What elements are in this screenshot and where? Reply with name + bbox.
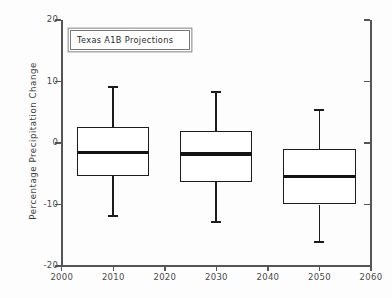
x-tick-label-2060: 2060 [351,272,391,282]
y-axis-left-line [61,20,63,266]
whisker-upper-cap [108,86,118,88]
whisker-lower-stem [112,176,114,217]
y-tick-right-20 [364,19,370,20]
whisker-lower-cap [211,221,221,223]
y-tick-label--20: -20 [28,260,58,270]
x-tick-label-2010: 2010 [93,272,133,282]
y-tick-right-0 [364,142,370,143]
whisker-lower-stem [319,205,321,244]
x-tick-label-2040: 2040 [248,272,288,282]
y-axis-right-line [370,20,372,266]
whisker-upper-stem [112,86,114,127]
median-line [180,152,252,155]
whisker-upper-stem [319,109,321,149]
whisker-upper-cap [211,91,221,93]
boxplot-chart: Percentage Precipitation Change 20100-10… [0,0,392,298]
x-tick-2040 [267,265,268,271]
y-tick-label-0: 0 [28,137,58,147]
x-tick-2050 [319,265,320,271]
median-line [77,151,149,154]
whisker-lower-stem [215,182,217,223]
whisker-lower-cap [108,215,118,217]
y-tick-label-20: 20 [28,14,58,24]
median-line [283,175,355,178]
x-tick-2060 [370,265,371,271]
x-tick-2020 [164,265,165,271]
x-tick-2000 [61,265,62,271]
x-tick-label-2050: 2050 [299,272,339,282]
whisker-upper-cap [314,109,324,111]
x-tick-label-2020: 2020 [145,272,185,282]
y-tick-label--10: -10 [28,199,58,209]
x-tick-label-2030: 2030 [196,272,236,282]
y-tick-label-10: 10 [28,76,58,86]
x-tick-2010 [113,265,114,271]
whisker-upper-stem [215,91,217,131]
y-tick-right-10 [364,81,370,82]
y-tick-right--20 [364,265,370,266]
box-iqr [180,131,252,182]
x-tick-label-2000: 2000 [42,272,82,282]
y-tick-right--10 [364,204,370,205]
legend-box: Texas A1B Projections [70,30,190,50]
x-tick-2030 [216,265,217,271]
whisker-lower-cap [314,241,324,243]
legend-label: Texas A1B Projections [71,31,189,49]
